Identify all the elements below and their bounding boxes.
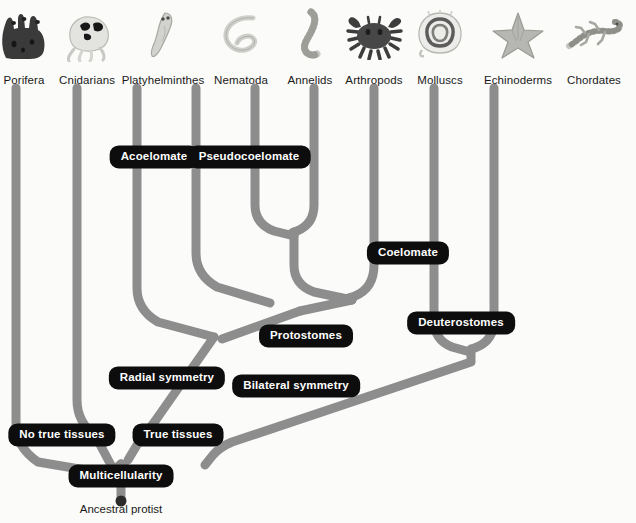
starfish-icon xyxy=(491,10,545,60)
crab-icon xyxy=(345,8,403,60)
ancestral-protist-label: Ancestral protist xyxy=(80,503,162,515)
branch-molluscs xyxy=(345,88,374,299)
branch-cnidarians xyxy=(77,88,112,467)
taxon-label-porifera: Porifera xyxy=(3,74,44,86)
phylogenetic-tree-diagram: PoriferaCnidariansPlatyhelminthesNematod… xyxy=(0,0,636,523)
trait-label-radial-symmetry: Radial symmetry xyxy=(109,366,225,389)
branch-annelid-arthropod-stem xyxy=(294,232,352,300)
trait-label-multicellularity: Multicellularity xyxy=(69,464,174,487)
branch-chordates xyxy=(472,88,494,349)
trait-label-bilateral-symmetry: Bilateral symmetry xyxy=(232,374,360,397)
trait-label-no-true-tissues: No true tissues xyxy=(8,423,115,446)
trait-label-deuterostomes: Deuterostomes xyxy=(407,311,515,334)
trait-label-coelomate: Coelomate xyxy=(367,241,449,264)
branch-porifera xyxy=(16,88,109,474)
jellyfish-icon xyxy=(58,8,116,62)
branch-deuterostome-stem xyxy=(205,349,471,465)
trait-label-acoelomate: Acoelomate xyxy=(110,145,199,168)
roundworm-icon xyxy=(217,12,265,58)
branch-platyhelminthes xyxy=(137,88,214,337)
trait-label-pseudocoelomate: Pseudocoelomate xyxy=(188,145,311,168)
taxon-label-molluscs: Molluscs xyxy=(417,74,463,86)
taxon-label-annelids: Annelids xyxy=(288,74,333,86)
taxon-label-echinoderms: Echinoderms xyxy=(484,74,552,86)
trait-label-true-tissues: True tissues xyxy=(133,423,224,446)
flatworm-icon xyxy=(146,8,180,60)
taxon-label-arthropods: Arthropods xyxy=(345,74,402,86)
shell-icon xyxy=(414,8,466,58)
segmented-worm-icon xyxy=(291,8,329,60)
taxon-label-nematoda: Nematoda xyxy=(214,74,268,86)
taxon-label-cnidarians: Cnidarians xyxy=(59,74,115,86)
taxon-label-platyhelminthes: Platyhelminthes xyxy=(122,74,205,86)
trait-label-protostomes: Protostomes xyxy=(259,324,353,347)
lizard-icon xyxy=(565,10,623,60)
taxon-label-chordates: Chordates xyxy=(567,74,621,86)
sponge-icon xyxy=(0,6,52,62)
branch-coelomate-stem xyxy=(300,300,352,311)
